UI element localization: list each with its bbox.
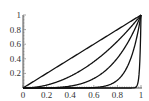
x-tick-label: 0.8: [112, 90, 124, 100]
y-tick-label: 1: [17, 10, 22, 20]
power-curves-chart: 00.20.40.60.810.20.40.60.81: [0, 0, 149, 101]
x-tick-label: 0.2: [41, 90, 52, 100]
y-tick-label: 0.6: [10, 39, 22, 49]
x-tick-label: 0.4: [65, 90, 77, 100]
y-tick-label: 0.8: [10, 25, 22, 35]
y-tick-label: 0.4: [10, 54, 22, 64]
curve-1: [23, 15, 141, 88]
y-tick-label: 0.2: [10, 68, 21, 78]
x-tick-label: 1: [139, 90, 144, 100]
x-tick-label: 0.6: [88, 90, 100, 100]
curves: [23, 15, 141, 88]
x-tick-label: 0: [21, 90, 26, 100]
